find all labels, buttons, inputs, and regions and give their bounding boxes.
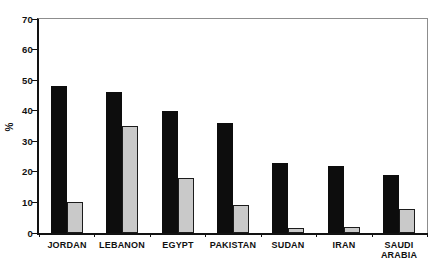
bar-gray-bars-jordan (67, 202, 83, 233)
bar-gray-bars-egypt (178, 178, 194, 233)
x-category-label-sudan: SUDAN (257, 240, 319, 250)
bar-gray-bars-sudan (288, 228, 304, 233)
y-tick-label-10: 10 (6, 197, 33, 208)
x-axis-tick-0 (39, 233, 40, 237)
x-axis-tick-7 (427, 233, 428, 237)
y-axis-title: % (4, 118, 15, 132)
x-axis-tick-6 (372, 233, 373, 237)
bar-gray-bars-lebanon (122, 126, 138, 233)
y-tick-label-30: 30 (6, 136, 33, 147)
bar-gray-bars-iran (344, 227, 360, 233)
bar-black-bars-iran (328, 166, 344, 233)
bar-black-bars-egypt (162, 111, 178, 233)
y-tick-label-70: 70 (6, 14, 33, 25)
x-category-label-saudi-arabia: SAUDI ARABIA (368, 240, 430, 260)
bar-black-bars-sudan (272, 163, 288, 233)
bar-black-bars-lebanon (106, 92, 122, 233)
bar-gray-bars-pakistan (233, 205, 249, 233)
x-category-label-jordan: JORDAN (36, 240, 98, 250)
plot-area (37, 18, 428, 235)
x-axis-tick-5 (316, 233, 317, 237)
x-axis-tick-4 (261, 233, 262, 237)
x-axis-tick-1 (94, 233, 95, 237)
bar-chart-figure: % 010203040506070JORDANLEBANONEGYPTPAKIS… (0, 0, 444, 276)
bar-black-bars-pakistan (217, 123, 233, 233)
y-tick-label-20: 20 (6, 166, 33, 177)
y-tick-label-40: 40 (6, 105, 33, 116)
x-axis-tick-2 (150, 233, 151, 237)
y-tick-label-0: 0 (6, 228, 33, 239)
x-axis-tick-3 (205, 233, 206, 237)
y-tick-label-50: 50 (6, 75, 33, 86)
x-category-label-lebanon: LEBANON (91, 240, 153, 250)
y-tick-label-60: 60 (6, 44, 33, 55)
x-category-label-egypt: EGYPT (147, 240, 209, 250)
bar-gray-bars-saudi-arabia (399, 209, 415, 233)
bar-black-bars-saudi-arabia (383, 175, 399, 233)
x-category-label-pakistan: PAKISTAN (202, 240, 264, 250)
x-category-label-iran: IRAN (313, 240, 375, 250)
bar-black-bars-jordan (51, 86, 67, 233)
